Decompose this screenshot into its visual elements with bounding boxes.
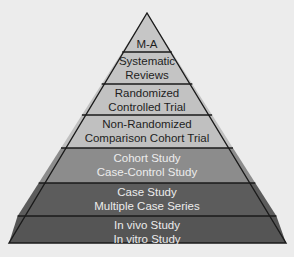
level-2-line-2: Reviews <box>0 68 294 82</box>
level-6-line-2: Multiple Case Series <box>0 199 294 213</box>
level-7-label: In vivo Study In vitro Study <box>0 218 294 246</box>
level-5-label: Cohort Study Case-Control Study <box>0 151 294 179</box>
level-6-line-1: Case Study <box>0 185 294 199</box>
level-4-label: Non-Randomized Comparison Cohort Trial <box>0 117 294 145</box>
level-4-line-2: Comparison Cohort Trial <box>0 131 294 145</box>
level-1-line-1: M-A <box>0 37 294 51</box>
level-7-line-2: In vitro Study <box>0 232 294 246</box>
level-7-line-1: In vivo Study <box>0 218 294 232</box>
level-6-label: Case Study Multiple Case Series <box>0 185 294 213</box>
level-2-label: Systematic Reviews <box>0 54 294 82</box>
level-3-label: Randomized Controlled Trial <box>0 86 294 114</box>
level-3-line-1: Randomized <box>0 86 294 100</box>
level-3-line-2: Controlled Trial <box>0 100 294 114</box>
level-5-line-2: Case-Control Study <box>0 165 294 179</box>
level-5-line-1: Cohort Study <box>0 151 294 165</box>
level-1-label: M-A <box>0 37 294 51</box>
level-2-line-1: Systematic <box>0 54 294 68</box>
level-4-line-1: Non-Randomized <box>0 117 294 131</box>
